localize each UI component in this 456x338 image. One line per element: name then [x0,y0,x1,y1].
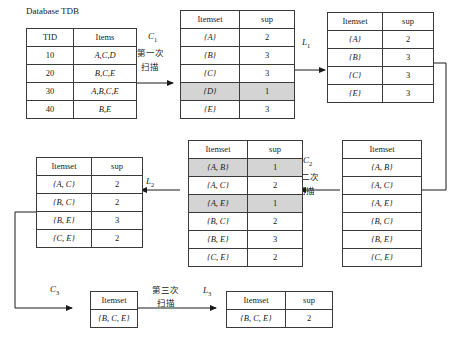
table-row: {B, E} 3 [37,212,143,230]
table-row: 10 A,C,D [27,47,137,65]
table-row: {A} 2 [181,29,295,47]
cell-sup: 3 [383,49,434,67]
column-header-itemset: Itemset [91,292,138,310]
candidate-2-itemsets-generated-table: Itemset {A, B} {A, C} {A, E} {B, C} {B, … [342,140,422,267]
cell-sup: 3 [240,65,295,83]
table-row: {C, E} [343,249,422,267]
table-header-row: Itemset sup [189,141,303,159]
cell-itemset: {A, B} [343,159,422,177]
column-header-itemset: Itemset [343,141,422,159]
cell-sup: 3 [240,101,295,119]
table-row: {B, C} [343,213,422,231]
table-header-row: Itemset sup [328,13,434,31]
table-row: {B} 3 [181,47,295,65]
column-header-sup: sup [248,141,303,159]
cell-items: B,C,E [74,65,137,83]
table-header-row: Itemset [343,141,422,159]
column-header-tid: TID [27,29,74,47]
frequent-3-itemsets-table: Itemset sup {B, C, E} 2 [226,291,333,328]
table-header-row: Itemset sup [181,11,295,29]
cell-tid: 30 [27,83,74,101]
table-row: {A, E} [343,195,422,213]
cell-itemset: {B, C, E} [227,310,286,328]
table-row: {B, E} 3 [189,231,303,249]
cell-itemset: {E} [181,101,240,119]
scan3-line2: 扫描 [157,296,175,308]
cell-tid: 20 [27,65,74,83]
table-row: {C, E} 2 [189,249,303,267]
cell-sup: 1 [240,83,295,101]
cell-itemset: {A} [181,29,240,47]
cell-sup: 2 [248,177,303,195]
cell-sup: 1 [248,159,303,177]
cell-sup: 2 [92,176,143,194]
label-l2: L2 [146,176,154,188]
cell-items: A,B,C,E [74,83,137,101]
frequent-2-itemsets-table: Itemset sup {A, C} 2 {B, C} 2 {B, E} 3 {… [36,157,143,248]
cell-itemset: {D} [181,83,240,101]
table-row: {A, C} 2 [37,176,143,194]
cell-itemset: {B, C, E} [91,310,138,328]
table-row: {B, C} 2 [37,194,143,212]
cell-itemset: {A, B} [189,159,248,177]
cell-itemset: {A, E} [343,195,422,213]
cell-tid: 10 [27,47,74,65]
cell-sup: 2 [383,31,434,49]
table-row: {A} 2 [328,31,434,49]
cell-itemset: {A, C} [37,176,92,194]
scan1-line2: 扫描 [141,60,159,72]
table-row: {A, B} [343,159,422,177]
column-header-sup: sup [286,292,333,310]
table-header-row: Itemset sup [227,292,333,310]
cell-sup: 3 [248,231,303,249]
table-row: {B, C} 2 [189,213,303,231]
cell-sup: 2 [248,213,303,231]
cell-sup: 3 [383,85,434,103]
column-header-sup: sup [92,158,143,176]
label-c1: C1 [148,31,157,43]
cell-itemset: {C, E} [343,249,422,267]
table-row: {C, E} 2 [37,230,143,248]
cell-itemset: {C} [181,65,240,83]
cell-itemset: {B, E} [343,231,422,249]
cell-itemset: {C, E} [37,230,92,248]
table-header-row: Itemset sup [37,158,143,176]
cell-sup: 2 [286,310,333,328]
table-header-row: TID Items [27,29,137,47]
cell-sup: 3 [92,212,143,230]
cell-itemset: {B} [181,47,240,65]
table-row-pruned: {D} 1 [181,83,295,101]
cell-items: A,C,D [74,47,137,65]
table-row-pruned: {A, B} 1 [189,159,303,177]
table-row: 30 A,B,C,E [27,83,137,101]
table-row: {C} 3 [181,65,295,83]
cell-itemset: {E} [328,85,383,103]
label-c2: C2 [303,155,312,167]
cell-sup: 3 [240,47,295,65]
column-header-itemset: Itemset [227,292,286,310]
scan3-line1: 第三次 [152,283,180,295]
table-row-pruned: {A, E} 1 [189,195,303,213]
column-header-sup: sup [383,13,434,31]
cell-itemset: {B} [328,49,383,67]
candidate-2-itemsets-counted-table: Itemset sup {A, B} 1 {A, C} 2 {A, E} 1 {… [188,140,303,267]
column-header-itemset: Itemset [181,11,240,29]
cell-itemset: {B, C} [37,194,92,212]
table-row: {E} 3 [181,101,295,119]
candidate-1-itemsets-table: Itemset sup {A} 2 {B} 3 {C} 3 {D} 1 {E} … [180,10,295,119]
cell-sup: 1 [248,195,303,213]
label-l3: L3 [203,285,211,297]
column-header-items: Items [74,29,137,47]
cell-items: B,E [74,101,137,119]
transaction-database-table: TID Items 10 A,C,D 20 B,C,E 30 A,B,C,E 4… [26,28,137,119]
cell-itemset: {C} [328,67,383,85]
cell-itemset: {A, C} [343,177,422,195]
table-row: {B, C, E} 2 [227,310,333,328]
cell-itemset: {A, E} [189,195,248,213]
cell-tid: 40 [27,101,74,119]
table-row: {B, E} [343,231,422,249]
column-header-itemset: Itemset [189,141,248,159]
cell-sup: 2 [248,249,303,267]
cell-itemset: {B, C} [343,213,422,231]
table-row: {A, C} [343,177,422,195]
